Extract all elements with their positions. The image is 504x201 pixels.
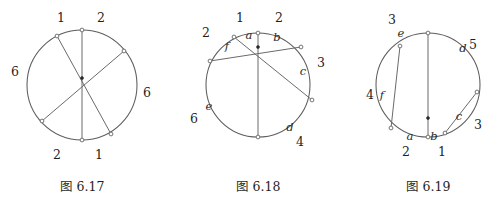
fig-6-18-letter-label-2: c	[300, 66, 306, 78]
fig-6-19-endpoint-dot-5	[443, 131, 447, 135]
fig-6-19-number-label-0: 3	[388, 14, 396, 27]
fig-6-17-number-label-5: 1	[95, 149, 103, 162]
fig-6-17-caption: 图 6.17	[0, 176, 334, 195]
fig-6-19-number-label-3: 2	[402, 146, 410, 159]
fig-6-18-letter-label-3: d	[286, 122, 293, 134]
fig-6-17-number-label-3: 6	[143, 87, 151, 100]
fig-6-19-endpoint-dot-4	[475, 90, 479, 94]
fig-6-17-number-label-1: 2	[97, 12, 105, 25]
fig-6-18-chord-through-f-to-c	[234, 37, 312, 100]
fig-6-18-circle-outline	[206, 33, 310, 137]
fig-6-18-letter-label-0: a	[246, 30, 253, 42]
fig-6-19-endpoint-dot-3	[389, 126, 393, 130]
fig-6-19-circle-outline	[376, 33, 480, 137]
fig-6-19-number-label-5: 4	[366, 89, 374, 102]
fig-6-18-number-label-1: 2	[275, 12, 283, 25]
fig-6-18-number-label-3: 3	[317, 57, 325, 70]
fig-6-17-number-label-4: 2	[53, 149, 61, 162]
fig-6-18-caption: 图 6.18	[6, 176, 504, 195]
fig-6-17-diagram	[0, 0, 504, 201]
fig-6-18-endpoint-dot-3	[310, 98, 314, 102]
fig-6-17-number-label-0: 1	[57, 12, 65, 25]
fig-6-17-interior-point	[81, 77, 84, 80]
fig-6-18-number-label-0: 1	[236, 12, 244, 25]
fig-6-19-endpoint-dot-2	[398, 44, 402, 48]
fig-6-18-number-label-5: 6	[190, 113, 198, 126]
fig-6-17-number-label-2: 6	[11, 66, 19, 79]
fig-6-19-chord-through-e-to-a	[391, 46, 400, 128]
fig-6-18-letter-label-1: b	[273, 32, 280, 44]
fig-6-18-endpoint-dot-5	[208, 59, 212, 63]
fig-6-17-endpoint-dot-0	[80, 28, 84, 32]
fig-6-19-number-label-2: 3	[474, 119, 482, 132]
fig-6-19-endpoint-dot-1	[426, 135, 430, 139]
fig-6-19-endpoint-dot-0	[426, 31, 430, 35]
fig-6-17-endpoint-dot-1	[80, 138, 84, 142]
fig-6-19-chord-through-d-to-c	[445, 92, 477, 133]
fig-6-19-number-label-4: 1	[438, 146, 446, 159]
fig-6-17-endpoint-dot-5	[40, 119, 44, 123]
fig-6-19-letter-label-2: c	[456, 111, 462, 123]
fig-6-18-endpoint-dot-1	[256, 135, 260, 139]
fig-6-18-endpoint-dot-0	[256, 31, 260, 35]
fig-6-18-letter-label-5: f	[225, 41, 229, 53]
fig-6-19-diagram	[0, 0, 504, 201]
fig-6-19-caption: 图 6.19	[176, 176, 504, 195]
fig-6-19-letter-label-1: d	[459, 43, 466, 55]
fig-6-17-endpoint-dot-2	[55, 34, 59, 38]
fig-6-18-letter-label-4: e	[206, 101, 213, 113]
fig-6-18-endpoint-dot-4	[299, 45, 303, 49]
fig-6-19-letter-label-3: b	[430, 131, 437, 143]
fig-6-19-letter-label-4: a	[407, 131, 414, 143]
fig-6-17-chord-upper-left-to-lower-right	[57, 36, 111, 134]
fig-6-18-number-label-4: 4	[296, 136, 304, 149]
figure-panel-fig-6-18: 122346abcdef图 6.18	[0, 0, 504, 201]
fig-6-17-endpoint-dot-3	[109, 132, 113, 136]
figure-panel-fig-6-17: 126621图 6.17	[0, 0, 504, 201]
fig-6-17-endpoint-dot-4	[122, 49, 126, 53]
fig-6-19-interior-point	[427, 117, 430, 120]
fig-6-19-letter-label-5: f	[380, 90, 384, 102]
fig-6-18-chord-through-b-to-e	[210, 47, 301, 61]
fig-6-19-number-label-1: 5	[469, 39, 477, 52]
fig-6-18-diagram	[0, 0, 504, 201]
fig-6-17-chord-upper-right-to-lower-left	[42, 51, 124, 121]
figures-container: 126621图 6.17122346abcdef图 6.18353214edcb…	[0, 0, 504, 201]
fig-6-17-circle-outline	[27, 30, 137, 140]
fig-6-18-endpoint-dot-2	[232, 35, 236, 39]
figure-panel-fig-6-19: 353214edcbaf图 6.19	[0, 0, 504, 201]
fig-6-18-interior-point	[257, 46, 260, 49]
fig-6-19-letter-label-0: e	[398, 28, 405, 40]
fig-6-18-number-label-2: 2	[202, 27, 210, 40]
